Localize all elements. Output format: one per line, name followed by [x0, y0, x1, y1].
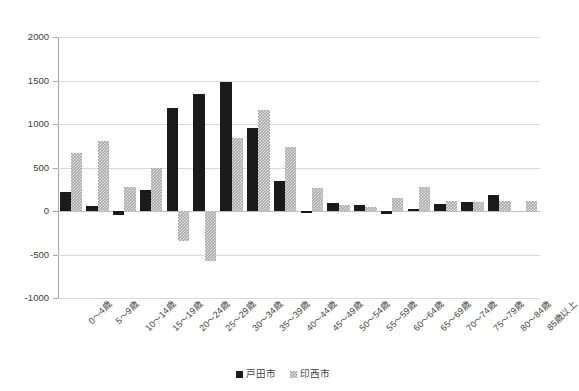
bar-inzai [151, 168, 162, 212]
y-tick-label: 500 [0, 163, 49, 173]
bar-inzai [98, 141, 109, 211]
bar-inzai [446, 201, 457, 211]
bar-inzai [499, 201, 510, 211]
bar-inzai [258, 110, 269, 211]
legend-swatch-inzai [290, 371, 297, 378]
bar-inzai [178, 211, 189, 241]
bar-inzai [232, 138, 243, 211]
bar-toda [113, 211, 124, 215]
bar-inzai [339, 205, 350, 211]
bar-toda [488, 195, 499, 211]
bar-toda [327, 203, 338, 211]
bar-toda [301, 211, 312, 213]
legend-swatch-toda [236, 371, 243, 378]
gridline--1000 [58, 298, 540, 299]
legend-entry[interactable]: 戸田市 [236, 366, 276, 380]
y-tick-label: -500 [0, 250, 49, 260]
bar-toda [220, 82, 231, 211]
legend-label: 印西市 [300, 366, 330, 380]
bar-inzai [71, 153, 82, 211]
bar-toda [461, 202, 472, 211]
legend-entry[interactable]: 印西市 [290, 366, 330, 380]
y-tick-label: 2000 [0, 32, 49, 42]
bar-toda [274, 181, 285, 211]
gridline-2000 [58, 37, 540, 38]
bar-toda [167, 108, 178, 211]
bar-inzai [526, 201, 537, 211]
bar-inzai [392, 198, 403, 211]
bar-toda [354, 205, 365, 211]
bar-toda [408, 209, 419, 211]
bar-toda [193, 94, 204, 211]
x-tick-label: 5〜9歳 [114, 300, 141, 327]
y-tick-label: -1000 [0, 293, 49, 303]
bar-toda [247, 128, 258, 211]
legend-label: 戸田市 [246, 366, 276, 380]
bar-toda [60, 192, 71, 211]
plot-area [58, 37, 540, 298]
bar-inzai [312, 188, 323, 211]
y-tick-label: 1000 [0, 119, 49, 129]
chart-legend: 戸田市印西市 [0, 366, 565, 380]
bar-toda [381, 211, 392, 214]
bar-inzai [205, 211, 216, 261]
y-tick-label: 0 [0, 206, 49, 216]
gridline--500 [58, 255, 540, 256]
gridline-1500 [58, 81, 540, 82]
gridline-0 [58, 211, 540, 212]
bar-inzai [124, 187, 135, 211]
bar-toda [140, 190, 151, 211]
bar-inzai [365, 207, 376, 211]
gridline-1000 [58, 124, 540, 125]
bar-inzai [285, 147, 296, 211]
gridline-500 [58, 168, 540, 169]
bar-inzai [473, 202, 484, 211]
x-tick-label: 0〜4歳 [88, 300, 115, 327]
x-axis-tick-labels: 0〜4歳5〜9歳10〜14歳15〜19歳20〜24歳25〜29歳30〜34歳35… [58, 300, 540, 362]
bar-toda [86, 206, 97, 211]
bar-inzai [419, 187, 430, 211]
y-tick-label: 1500 [0, 76, 49, 86]
bar-toda [434, 204, 445, 211]
